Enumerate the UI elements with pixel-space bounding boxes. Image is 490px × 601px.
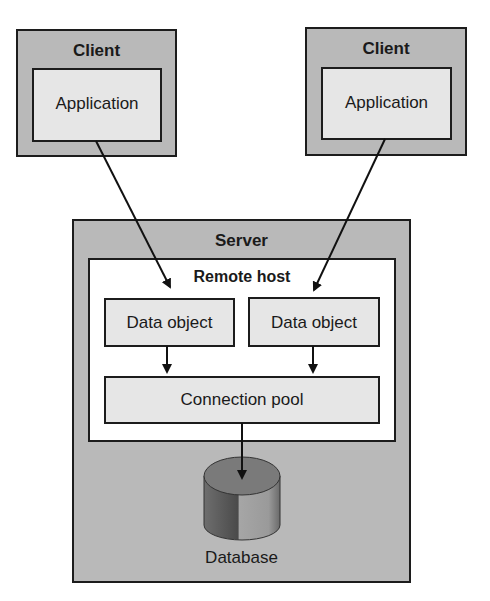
arrow-client-right-to-data-object	[314, 139, 385, 290]
arrow-client-left-to-data-object	[96, 141, 170, 287]
connectors-layer	[0, 0, 490, 601]
